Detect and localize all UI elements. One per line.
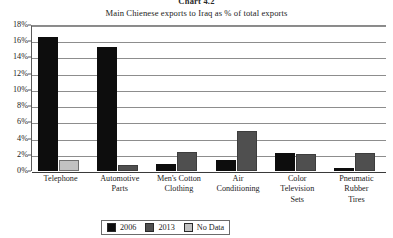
- bar-groups: [32, 26, 386, 171]
- legend-item: 2013: [145, 223, 174, 232]
- y-tick-mark: [28, 89, 31, 90]
- x-tick-label: Telephone: [27, 174, 94, 184]
- bar-group: [32, 26, 91, 171]
- y-tick-label: 4%: [17, 135, 28, 143]
- x-tick-label-line: Rubber: [323, 184, 390, 194]
- chart-page: Chart 4.2 Main Chienese exports to Iraq …: [0, 0, 393, 238]
- y-tick-mark: [28, 122, 31, 123]
- x-tick-label-line: Air: [205, 174, 272, 184]
- figure-number: Chart 4.2: [0, 0, 393, 6]
- plot-area: [31, 25, 386, 171]
- x-tick-label: AirConditioning: [205, 174, 272, 195]
- bar-group: [210, 26, 269, 171]
- y-axis-labels: 0%2%4%6%8%10%12%14%16%18%: [0, 25, 28, 171]
- y-tick-label: 2%: [17, 151, 28, 159]
- y-tick-mark: [28, 41, 31, 42]
- y-tick-mark: [28, 154, 31, 155]
- bar-group: [269, 26, 328, 171]
- y-tick-label: 18%: [13, 21, 28, 29]
- chart-title: Main Chienese exports to Iraq as % of to…: [0, 8, 393, 18]
- x-tick-label-line: Tires: [323, 195, 390, 205]
- legend-swatch: [107, 223, 116, 232]
- y-tick-label: 12%: [13, 70, 28, 78]
- y-tick-mark: [28, 106, 31, 107]
- y-tick-label: 10%: [13, 86, 28, 94]
- y-tick-label: 8%: [17, 102, 28, 110]
- bar-group: [150, 26, 209, 171]
- bar-2006: [216, 160, 236, 171]
- x-tick-label-line: Conditioning: [205, 184, 272, 194]
- x-tick-label-line: Clothing: [145, 184, 212, 194]
- legend-swatch: [145, 223, 154, 232]
- legend-item: No Data: [184, 223, 225, 232]
- y-tick-mark: [28, 57, 31, 58]
- x-tick-label: AutomotiveParts: [86, 174, 153, 195]
- bar-2006: [334, 168, 354, 171]
- bar-2013: [118, 165, 138, 171]
- bar-2013: [237, 131, 257, 171]
- bar-2013: [355, 153, 375, 171]
- y-tick-mark: [28, 171, 31, 172]
- x-tick-label: PneumaticRubberTires: [323, 174, 390, 205]
- y-tick-mark: [28, 73, 31, 74]
- x-tick-label-line: Parts: [86, 184, 153, 194]
- x-tick-label-line: Sets: [264, 195, 331, 205]
- bar-no-data: [59, 160, 79, 171]
- bar-2006: [97, 47, 117, 171]
- y-tick-mark: [28, 138, 31, 139]
- legend-label: 2006: [120, 223, 136, 232]
- x-axis-labels: TelephoneAutomotivePartsMen's CottonClot…: [31, 174, 386, 216]
- x-tick-label-line: Automotive: [86, 174, 153, 184]
- x-tick-label-line: Color: [264, 174, 331, 184]
- bar-2006: [275, 153, 295, 171]
- y-tick-mark: [28, 25, 31, 26]
- x-tick-label-line: Telephone: [27, 174, 94, 184]
- x-tick-label: ColorTelevisionSets: [264, 174, 331, 205]
- bar-group: [91, 26, 150, 171]
- bar-2013: [296, 154, 316, 171]
- bar-group: [328, 26, 387, 171]
- legend-item: 2006: [107, 223, 136, 232]
- legend-label: 2013: [158, 223, 174, 232]
- x-tick-label-line: Men's Cotton: [145, 174, 212, 184]
- gridline-0%: [32, 172, 386, 173]
- bar-2013: [177, 152, 197, 171]
- legend-swatch: [184, 223, 193, 232]
- y-tick-label: 6%: [17, 118, 28, 126]
- x-tick-label-line: Television: [264, 184, 331, 194]
- bar-2006: [38, 37, 58, 171]
- chart-legend: 20062013No Data: [101, 220, 230, 235]
- x-tick-label-line: Pneumatic: [323, 174, 390, 184]
- legend-label: No Data: [197, 223, 225, 232]
- y-tick-label: 16%: [13, 37, 28, 45]
- bar-2006: [156, 164, 176, 171]
- y-tick-label: 14%: [13, 53, 28, 61]
- x-tick-label: Men's CottonClothing: [145, 174, 212, 195]
